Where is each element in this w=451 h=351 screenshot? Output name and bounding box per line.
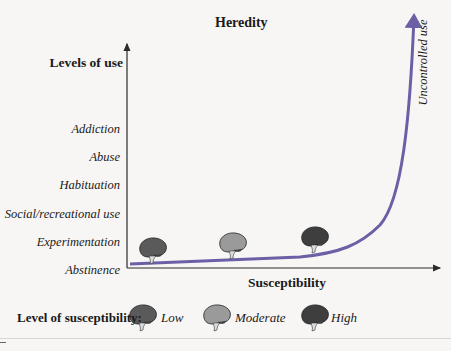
brain-high-icon xyxy=(302,227,329,253)
legend-low: Low xyxy=(161,310,183,326)
margin-tick xyxy=(0,342,6,343)
curve-label: Uncontrolled use xyxy=(416,20,431,106)
brain-moderate-icon xyxy=(220,233,247,259)
legend-moderate: Moderate xyxy=(235,310,286,326)
divider xyxy=(0,338,451,339)
legend-brain-high-icon xyxy=(302,305,329,331)
legend-brain-moderate-icon xyxy=(204,305,231,331)
use-curve xyxy=(130,16,414,264)
diagram-graphics xyxy=(0,0,451,351)
legend-label: Level of susceptibility: xyxy=(17,310,142,326)
legend-high: High xyxy=(331,310,357,326)
brain-low-icon xyxy=(140,238,167,264)
